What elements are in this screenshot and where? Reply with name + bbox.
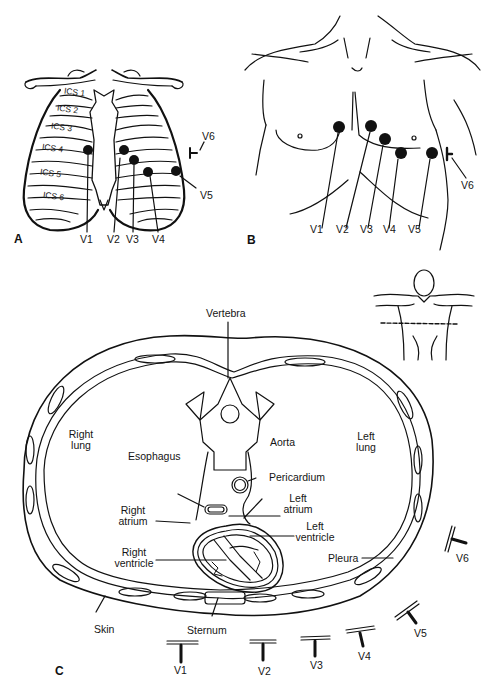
label-esophagus: Esophagus <box>128 451 181 462</box>
a-lead-v5-label: V5 <box>200 190 213 201</box>
a-lead-v2-label: V2 <box>107 234 120 245</box>
label-left-lung: Left lung <box>351 431 381 453</box>
c-lead-v2-label: V2 <box>258 666 271 677</box>
panel-c-electrodes <box>167 526 466 662</box>
label-right-ventricle: Right ventricle <box>110 547 158 569</box>
b-lead-v6-label: V6 <box>461 180 474 191</box>
b-lead-v5-label: V5 <box>408 224 421 235</box>
label-aorta: Aorta <box>270 437 295 448</box>
c-lead-v3-label: V3 <box>310 660 323 671</box>
label-vertebra: Vertebra <box>206 308 246 319</box>
panel-label-c: C <box>55 664 64 678</box>
label-sternum: Sternum <box>187 625 227 636</box>
a-lead-v6-label: V6 <box>202 131 215 142</box>
b-lead-v1-label: V1 <box>310 224 323 235</box>
right-ventricle-line2: ventricle <box>110 558 158 569</box>
label-right-lung: Right lung <box>63 429 99 451</box>
label-left-ventricle: Left ventricle <box>292 521 338 543</box>
c-lead-v6-label: V6 <box>456 553 469 564</box>
panel-label-a: A <box>14 232 23 246</box>
panel-label-b: B <box>247 233 256 247</box>
left-ventricle-line2: ventricle <box>292 532 338 543</box>
a-lead-v1-label: V1 <box>80 234 93 245</box>
c-lead-v1-label: V1 <box>174 665 187 676</box>
a-lead-v4-label: V4 <box>152 234 165 245</box>
left-atrium-line2: atrium <box>280 504 316 515</box>
label-pleura: Pleura <box>328 553 358 564</box>
b-lead-v3-label: V3 <box>360 224 373 235</box>
b-lead-v4-label: V4 <box>383 224 396 235</box>
a-lead-v3-label: V3 <box>126 234 139 245</box>
c-lead-v4-label: V4 <box>358 651 371 662</box>
torso-drawing <box>245 16 480 250</box>
right-atrium-line2: atrium <box>112 516 154 527</box>
c-lead-v5-label: V5 <box>414 628 427 639</box>
inset-body-outline <box>374 270 474 360</box>
label-pericardium: Pericardium <box>269 472 325 483</box>
left-lung-line2: lung <box>351 442 381 453</box>
label-right-atrium: Right atrium <box>112 505 154 527</box>
b-lead-v2-label: V2 <box>336 224 349 235</box>
ecg-lead-placement-figure <box>0 0 486 685</box>
label-skin: Skin <box>94 624 114 635</box>
label-left-atrium: Left atrium <box>280 493 316 515</box>
right-lung-line2: lung <box>63 440 99 451</box>
